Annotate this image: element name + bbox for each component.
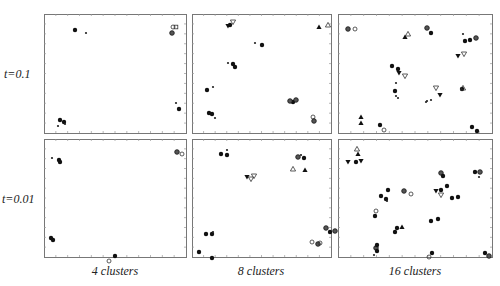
row-label-top: t=0.1 [4, 67, 30, 81]
scatter-panel [44, 139, 187, 263]
scatter-panel [192, 14, 332, 134]
cluster-scatter-figure: t=0.1 t=0.01 4 clusters 8 clusters 16 cl… [0, 0, 500, 286]
scatter-panel [338, 139, 493, 259]
row-label-bottom: t=0.01 [2, 192, 34, 206]
scatter-panel [338, 14, 493, 134]
scatter-panel [44, 14, 187, 134]
col-label-8: 8 clusters [238, 264, 285, 278]
col-label-4: 4 clusters [92, 264, 139, 278]
col-label-16: 16 clusters [389, 264, 442, 278]
scatter-panel [192, 139, 337, 260]
